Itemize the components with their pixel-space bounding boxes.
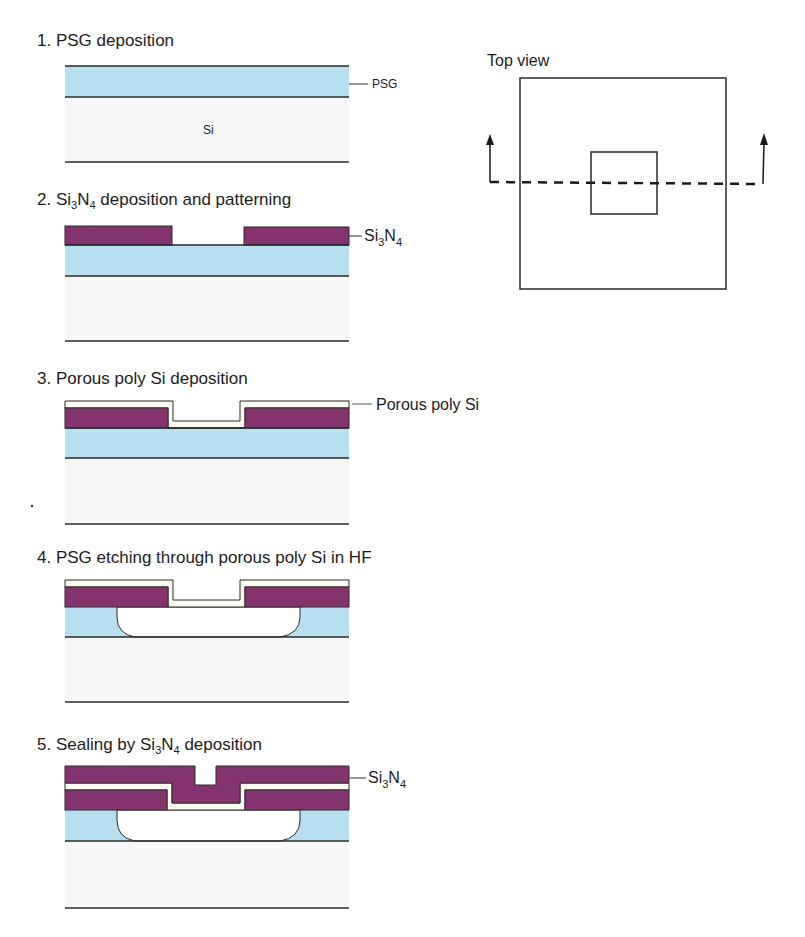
section-line	[490, 182, 762, 184]
psg-label: PSG	[372, 77, 397, 91]
step-3: 3. Porous poly Si deposition Porous poly…	[31, 369, 479, 524]
step-5-title: 5. Sealing by Si3N4 deposition	[37, 735, 262, 756]
si3n4-left	[65, 408, 168, 428]
step-5: 5. Sealing by Si3N4 deposition Si3N4	[37, 735, 406, 908]
psg-layer	[65, 428, 349, 458]
si3n4-right	[245, 408, 349, 428]
si3n4-label: Si3N4	[368, 769, 406, 790]
step-2: 2. Si3N4 deposition and patterning Si3N4	[37, 190, 402, 341]
si3n4-label: Si3N4	[364, 227, 402, 248]
step-2-title: 2. Si3N4 deposition and patterning	[37, 190, 291, 211]
arrow-up-left-icon	[486, 134, 494, 145]
cavity	[117, 607, 300, 637]
si3n4-left	[65, 226, 172, 245]
psg-layer	[65, 245, 349, 276]
psg-layer	[65, 66, 349, 97]
step-4-title: 4. PSG etching through porous poly Si in…	[37, 548, 372, 567]
step-3-title: 3. Porous poly Si deposition	[37, 369, 248, 388]
process-flow-diagram: 1. PSG deposition PSG Si 2. Si3N4 deposi…	[0, 0, 805, 937]
arrow-up-right-icon	[760, 133, 768, 145]
si3n4-lower-left	[65, 790, 167, 810]
si-label: Si	[203, 123, 214, 137]
si3n4-left	[65, 587, 168, 607]
si3n4-lower-right	[245, 790, 349, 810]
si3n4-right	[245, 587, 349, 607]
si3n4-right	[244, 227, 349, 245]
si-substrate	[65, 637, 349, 702]
cavity	[117, 810, 300, 841]
si-substrate	[65, 458, 349, 524]
top-view: Top view	[486, 52, 768, 289]
step-1-title: 1. PSG deposition	[37, 31, 174, 50]
si-substrate	[65, 276, 349, 341]
top-view-title: Top view	[487, 52, 550, 69]
step-4: 4. PSG etching through porous poly Si in…	[37, 548, 372, 702]
step-1: 1. PSG deposition PSG Si	[37, 31, 397, 162]
si-substrate	[65, 841, 349, 908]
porous-poly-si-label: Porous poly Si	[376, 396, 479, 413]
